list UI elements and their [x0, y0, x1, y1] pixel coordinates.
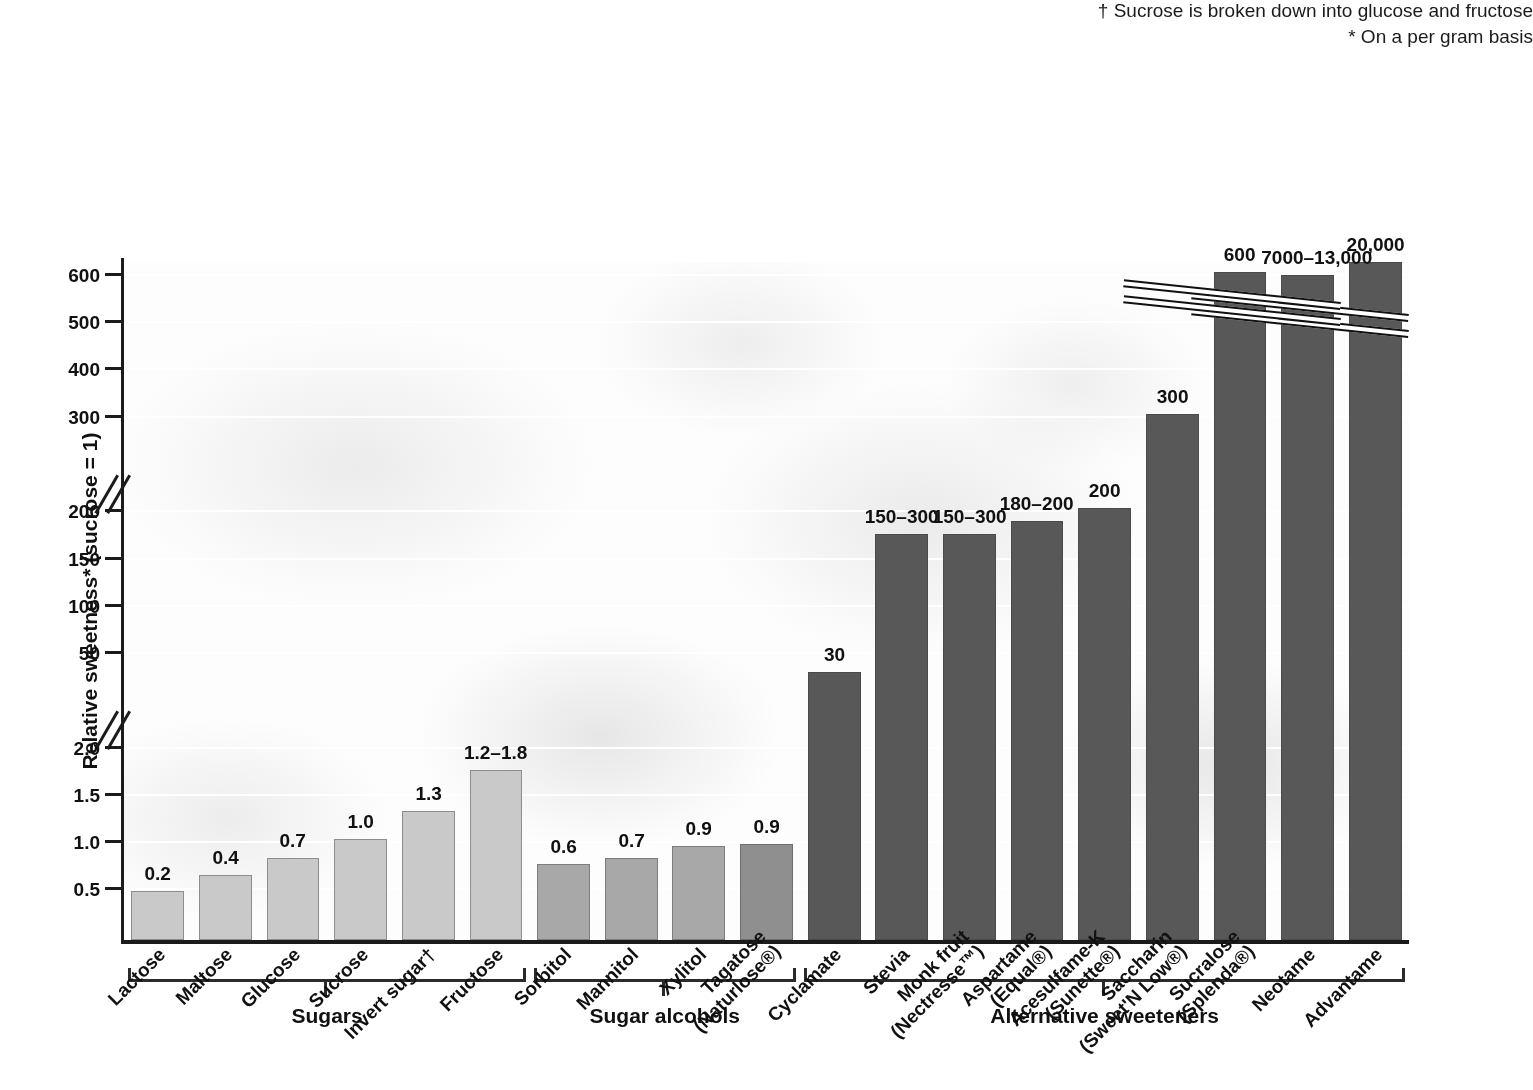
axis-tick	[105, 840, 121, 843]
bar[interactable]	[1281, 275, 1334, 940]
bar-value-label: 0.2	[111, 863, 204, 885]
bar[interactable]	[402, 811, 455, 940]
bar[interactable]	[1146, 414, 1199, 940]
bar[interactable]	[808, 672, 861, 940]
bar-value-label: 150–300	[855, 506, 948, 528]
bar[interactable]	[199, 875, 252, 940]
bar[interactable]	[1078, 508, 1131, 940]
axis-tick	[105, 651, 121, 654]
bar[interactable]	[470, 771, 523, 941]
bar[interactable]	[1011, 521, 1064, 940]
bar[interactable]	[740, 844, 793, 940]
axis-tick	[105, 604, 121, 607]
value-axis-title: Relative sweetness* (sucrose = 1)	[78, 262, 102, 940]
bar-value-label: 300	[1126, 386, 1219, 408]
axis-tick	[105, 557, 121, 560]
bar[interactable]	[131, 891, 184, 940]
bar[interactable]	[605, 858, 658, 940]
footnote: † Sucrose is broken down into glucose an…	[113, 0, 1533, 22]
bar[interactable]	[334, 839, 387, 940]
axis-tick	[105, 746, 121, 749]
bar-value-label: 1.3	[382, 783, 475, 805]
axis-tick	[105, 273, 121, 276]
axis-tick	[105, 793, 121, 796]
footnote: * On a per gram basis	[113, 26, 1533, 48]
axis-tick	[105, 887, 121, 890]
bar[interactable]	[943, 534, 996, 940]
value-axis-line	[121, 258, 124, 944]
axis-tick	[105, 509, 121, 512]
bar[interactable]	[1214, 272, 1267, 940]
axis-tick	[105, 320, 121, 323]
bar[interactable]	[537, 864, 590, 940]
bar[interactable]	[267, 858, 320, 940]
bar-value-label: 30	[788, 644, 881, 666]
axis-tick	[105, 367, 121, 370]
bar[interactable]	[1349, 262, 1402, 940]
bar[interactable]	[875, 534, 928, 940]
bar-value-label: 600	[1194, 244, 1287, 266]
bar-value-label: 0.6	[517, 836, 610, 858]
bar-value-label: 1.2–1.8	[450, 743, 543, 765]
chart-canvas: 0.51.01.52.050100150200300400500600 Rela…	[0, 0, 1533, 1090]
bar[interactable]	[673, 846, 726, 940]
axis-tick	[105, 415, 121, 418]
